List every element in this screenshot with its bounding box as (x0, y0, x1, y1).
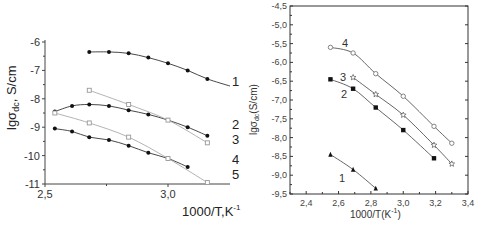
left-y-tick-label: -6 (30, 36, 40, 48)
data-point (205, 141, 209, 145)
data-point (107, 138, 111, 142)
left-x-tick-label: 2,5 (37, 188, 52, 200)
data-point (70, 104, 74, 108)
right-series-3 (350, 74, 454, 166)
data-point (432, 124, 436, 128)
right-x-axis-label: 1000/T(K-1) (350, 207, 401, 220)
left-y-axis-label: lgσdc, S/cm (4, 65, 21, 130)
left-curve-label: 2 (232, 117, 239, 132)
data-point (205, 134, 209, 138)
right-y-tick-label: -9,0 (271, 170, 287, 180)
left-y-tick-label: -7 (30, 64, 40, 76)
right-y-tick-label: -9,5 (271, 189, 287, 199)
left-series-1 (87, 50, 230, 86)
right-series-1 (328, 152, 378, 191)
data-point (87, 50, 91, 54)
right-y-axis-label: lgσdc(S/cm) (248, 84, 260, 135)
right-x-tick-label: 3,2 (429, 198, 442, 208)
data-point (351, 51, 355, 55)
right-y-tick-label: -8,0 (271, 133, 287, 143)
figure-canvas: -6-7-8-9-10-112,53,0 12345 lgσdc, S/cm 1… (0, 0, 483, 227)
data-point (186, 165, 190, 169)
right-y-tick-label: -7,0 (271, 95, 287, 105)
data-point (328, 152, 332, 157)
data-point (186, 68, 190, 72)
left-x-tick-label: 3,0 (160, 188, 175, 200)
data-point (166, 156, 170, 160)
data-point (374, 71, 378, 75)
data-point (186, 125, 190, 129)
right-x-tick-label: 2,8 (365, 198, 378, 208)
right-y-tick-label: -6,5 (271, 76, 287, 86)
left-chart: -6-7-8-9-10-112,53,0 12345 lgσdc, S/cm 1… (4, 36, 241, 219)
left-y-tick-label: -10 (24, 150, 40, 162)
data-point (53, 127, 57, 131)
data-point (127, 102, 131, 106)
left-curve-label: 3 (232, 132, 239, 147)
data-point (53, 111, 57, 115)
right-plot-area: 1234 (328, 37, 454, 191)
data-point (107, 104, 111, 108)
left-plot-area: 12345 (53, 50, 239, 185)
right-x-tick-label: 2,4 (300, 198, 313, 208)
data-point (146, 151, 150, 155)
data-point (450, 141, 454, 145)
data-point (401, 128, 405, 132)
data-point (127, 144, 131, 148)
data-point (205, 181, 209, 185)
left-series-4 (53, 127, 190, 169)
right-y-tick-label: -6,0 (271, 57, 287, 67)
right-curve-label: 3 (340, 71, 346, 83)
right-x-tick-label: 3,4 (462, 198, 475, 208)
right-curve-label: 4 (342, 37, 348, 49)
left-series-5 (53, 111, 210, 185)
data-point (87, 135, 91, 139)
left-series-3 (87, 88, 209, 145)
data-point (146, 56, 150, 60)
data-point (127, 135, 131, 139)
right-y-tick-label: -8,5 (271, 151, 287, 161)
data-point (146, 112, 150, 116)
data-point (87, 121, 91, 125)
right-y-tick-label: -4,5 (271, 1, 287, 11)
left-x-axis-label: 1000/T,K-1 (182, 203, 241, 219)
left-curve-label: 5 (232, 167, 239, 182)
right-y-tick-label: -7,5 (271, 114, 287, 124)
left-y-tick-label: -8 (30, 93, 40, 105)
right-plot-frame (290, 6, 468, 194)
data-point (401, 94, 405, 98)
data-point (351, 87, 355, 91)
data-point (107, 50, 111, 54)
data-point (127, 108, 131, 112)
left-curve-label: 1 (232, 74, 239, 89)
data-point (87, 88, 91, 92)
data-point (351, 167, 355, 172)
right-x-tick-label: 2,6 (332, 198, 345, 208)
data-point (374, 105, 378, 109)
data-point (205, 77, 209, 81)
right-curve-label: 1 (339, 172, 345, 184)
data-point (166, 118, 170, 122)
left-axes: -6-7-8-9-10-112,53,0 (24, 36, 230, 200)
data-point (166, 61, 170, 65)
left-curve-label: 4 (232, 152, 239, 167)
data-point (328, 77, 332, 81)
data-point (432, 156, 436, 160)
data-point (87, 102, 91, 106)
left-y-tick-label: -9 (30, 121, 40, 133)
right-chart: -4,5-5,0-5,5-6,0-6,5-7,0-7,5-8,0-8,5-9,0… (248, 1, 474, 220)
right-y-tick-label: -5,5 (271, 39, 287, 49)
data-point (374, 186, 378, 191)
data-point (127, 51, 131, 55)
right-curve-label: 2 (341, 88, 347, 100)
right-x-tick-label: 3,0 (397, 198, 410, 208)
right-y-tick-label: -5,0 (271, 20, 287, 30)
data-point (328, 45, 332, 49)
data-point (70, 129, 74, 133)
